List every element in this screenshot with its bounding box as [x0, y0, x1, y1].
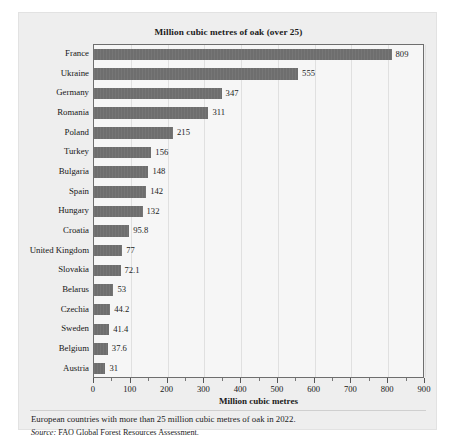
- bar[interactable]: [94, 88, 222, 100]
- bar-value-label: 142: [150, 185, 163, 197]
- bar-row: 142: [94, 183, 423, 203]
- bar-value-label: 31: [109, 362, 118, 374]
- bar[interactable]: [94, 68, 298, 80]
- bar[interactable]: [94, 49, 392, 61]
- bar[interactable]: [94, 304, 110, 316]
- category-label: Slovakia: [19, 263, 89, 275]
- x-tick-minor: [111, 378, 112, 381]
- x-tick-minor: [369, 378, 370, 381]
- bar-row: 41.4: [94, 320, 423, 340]
- bar[interactable]: [94, 107, 208, 119]
- category-axis-labels: FranceUkraineGermanyRomaniaPolandTurkeyB…: [19, 44, 89, 378]
- bar[interactable]: [94, 265, 121, 277]
- bar[interactable]: [94, 127, 173, 139]
- x-tick-major: [167, 378, 168, 383]
- source-text: FAO Global Forest Resources Assessment.: [56, 428, 199, 437]
- x-tick-label: 600: [294, 384, 334, 394]
- x-axis-title: Million cubic metres: [93, 396, 424, 406]
- bar[interactable]: [94, 166, 148, 178]
- bar-row: 132: [94, 202, 423, 222]
- x-tick-major: [350, 378, 351, 383]
- bar-value-label: 53: [117, 283, 126, 295]
- bar-row: 156: [94, 143, 423, 163]
- x-tick-major: [93, 378, 94, 383]
- bar[interactable]: [94, 324, 109, 336]
- gridline: [425, 45, 426, 377]
- bar[interactable]: [94, 206, 143, 218]
- bar-row: 31: [94, 359, 423, 379]
- bar-value-label: 95.8: [133, 224, 148, 236]
- chart-title: Million cubic metres of oak (over 25): [19, 27, 438, 37]
- x-tick-major: [130, 378, 131, 383]
- category-label: Romania: [19, 106, 89, 118]
- bar-row: 347: [94, 84, 423, 104]
- x-tick-label: 100: [110, 384, 150, 394]
- bar-row: 37.6: [94, 340, 423, 360]
- bar-row: 53: [94, 281, 423, 301]
- x-tick-label: 500: [257, 384, 297, 394]
- x-tick-major: [203, 378, 204, 383]
- bar-value-label: 72.1: [125, 264, 140, 276]
- x-tick-minor: [222, 378, 223, 381]
- category-label: Belarus: [19, 283, 89, 295]
- x-tick-minor: [148, 378, 149, 381]
- plot-area: 80955534731121515614814213295.87772.1534…: [93, 44, 424, 378]
- bar-row: 72.1: [94, 261, 423, 281]
- category-label: Belgium: [19, 342, 89, 354]
- bar[interactable]: [94, 284, 113, 296]
- category-label: United Kingdom: [19, 244, 89, 256]
- x-tick-label: 300: [183, 384, 223, 394]
- category-label: Bulgaria: [19, 165, 89, 177]
- x-tick-label: 0: [73, 384, 113, 394]
- bar-row: 555: [94, 65, 423, 85]
- x-tick-label: 900: [404, 384, 444, 394]
- source-prefix-label: Source:: [31, 428, 56, 437]
- bar-value-label: 148: [152, 165, 165, 177]
- x-tick-label: 200: [147, 384, 187, 394]
- x-tick-major: [424, 378, 425, 383]
- x-tick-major: [314, 378, 315, 383]
- footer-source: Source: FAO Global Forest Resources Asse…: [31, 427, 431, 439]
- bar-row: 809: [94, 45, 423, 65]
- x-tick-minor: [185, 378, 186, 381]
- category-label: Ukraine: [19, 67, 89, 79]
- category-label: France: [19, 47, 89, 59]
- bar[interactable]: [94, 225, 129, 237]
- x-tick-minor: [295, 378, 296, 381]
- x-tick-minor: [332, 378, 333, 381]
- bar-series: 80955534731121515614814213295.87772.1534…: [94, 45, 423, 377]
- category-label: Germany: [19, 86, 89, 98]
- bar[interactable]: [94, 147, 151, 159]
- bar-row: 311: [94, 104, 423, 124]
- bar[interactable]: [94, 343, 108, 355]
- x-tick-minor: [259, 378, 260, 381]
- bar-row: 148: [94, 163, 423, 183]
- figure-card: Million cubic metres of oak (over 25) Fr…: [18, 12, 437, 430]
- x-tick-major: [387, 378, 388, 383]
- bar-value-label: 132: [147, 205, 160, 217]
- category-label: Sweden: [19, 322, 89, 334]
- x-tick-label: 400: [220, 384, 260, 394]
- x-tick-minor: [406, 378, 407, 381]
- bar-row: 95.8: [94, 222, 423, 242]
- bar-value-label: 809: [396, 48, 409, 60]
- bar[interactable]: [94, 363, 105, 375]
- footer-divider: [30, 410, 426, 411]
- category-label: Poland: [19, 126, 89, 138]
- footer: European countries with more than 25 mil…: [31, 413, 431, 439]
- category-label: Austria: [19, 362, 89, 374]
- bar-row: 77: [94, 241, 423, 261]
- category-label: Czechia: [19, 303, 89, 315]
- bar-value-label: 156: [155, 146, 168, 158]
- bar-value-label: 77: [126, 244, 135, 256]
- category-label: Spain: [19, 185, 89, 197]
- bar-value-label: 37.6: [112, 342, 127, 354]
- category-label: Hungary: [19, 204, 89, 216]
- x-tick-label: 700: [330, 384, 370, 394]
- bar-value-label: 555: [302, 67, 315, 79]
- bar[interactable]: [94, 245, 122, 257]
- x-tick-label: 800: [367, 384, 407, 394]
- bar-row: 215: [94, 124, 423, 144]
- bar[interactable]: [94, 186, 146, 198]
- footer-note: European countries with more than 25 mil…: [31, 413, 431, 426]
